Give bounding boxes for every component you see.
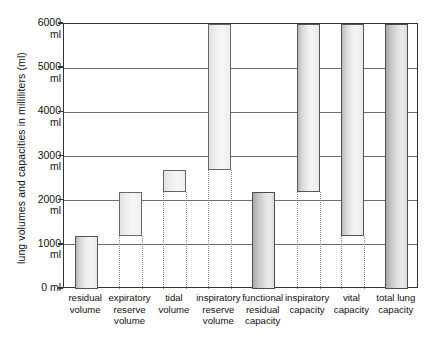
bar-tidal-volume [163, 170, 186, 192]
plot-area [63, 23, 418, 288]
x-label-line: reserve [107, 304, 151, 316]
x-label-line: reserve [196, 304, 240, 316]
lung-volumes-chart: lung volumes and capacities in millilite… [0, 0, 444, 339]
x-label-line: inspiratory [285, 292, 329, 304]
guide-inspiratory-capacity-right [320, 192, 322, 289]
y-tick-value: 0 [41, 281, 50, 293]
y-tick-unit: ml [17, 29, 61, 41]
y-tick-unit: ml [17, 205, 61, 217]
y-tick-label-1000: 1000ml [17, 238, 61, 261]
guide-inspiratory-reserve-volume-right [231, 170, 233, 289]
x-label-line: functional [241, 292, 285, 304]
gridline-5000 [64, 68, 417, 69]
gridline-4000 [64, 112, 417, 113]
y-tick-unit: ml [17, 117, 61, 129]
x-label-vital-capacity: vitalcapacity [329, 292, 373, 315]
x-label-functional-residual-capacity: functionalresidualcapacity [241, 292, 285, 327]
x-label-residual-volume: residualvolume [63, 292, 107, 315]
y-tick-value: 6000 [17, 17, 61, 29]
x-label-line: vital [329, 292, 373, 304]
y-tick-value: 5000 [17, 61, 61, 73]
x-label-line: volume [63, 304, 107, 316]
x-label-line: volume [196, 315, 240, 327]
guide-inspiratory-reserve-volume-left [208, 170, 210, 289]
guide-vital-capacity-left [341, 236, 343, 289]
x-label-line: total lung [374, 292, 418, 304]
guide-tidal-volume-right [186, 192, 188, 289]
bar-vital-capacity [341, 24, 364, 236]
x-label-line: residual [241, 304, 285, 316]
bar-functional-residual-capacity [252, 192, 275, 289]
x-label-total-lung-capacity: total lungcapacity [374, 292, 418, 315]
x-label-line: volume [107, 315, 151, 327]
x-label-line: capacity [241, 315, 285, 327]
x-label-line: volume [152, 304, 196, 316]
x-label-expiratory-reserve-volume: expiratoryreservevolume [107, 292, 151, 327]
guide-inspiratory-capacity-left [297, 192, 299, 289]
x-label-line: capacity [374, 304, 418, 316]
y-tick-label-3000: 3000ml [17, 150, 61, 173]
guide-vital-capacity-right [364, 236, 366, 289]
x-label-line: expiratory [107, 292, 151, 304]
x-label-inspiratory-capacity: inspiratorycapacity [285, 292, 329, 315]
gridline-2000 [64, 200, 417, 201]
y-tick-label-4000: 4000ml [17, 105, 61, 128]
y-tick-label-2000: 2000ml [17, 194, 61, 217]
x-label-line: residual [63, 292, 107, 304]
guide-tidal-volume-left [163, 192, 165, 289]
x-label-line: tidal [152, 292, 196, 304]
y-tick-label-5000: 5000ml [17, 61, 61, 84]
bar-inspiratory-capacity [297, 24, 320, 192]
gridline-3000 [64, 156, 417, 157]
bar-inspiratory-reserve-volume [208, 24, 231, 170]
bar-total-lung-capacity [385, 24, 408, 289]
bar-expiratory-reserve-volume [119, 192, 142, 236]
y-tick-unit: ml [17, 161, 61, 173]
bar-residual-volume [75, 236, 98, 289]
x-label-line: capacity [285, 304, 329, 316]
y-tick-label-0: 0 ml [17, 282, 61, 294]
y-tick-unit: ml [17, 73, 61, 85]
x-label-line: inspiratory [196, 292, 240, 304]
guide-expiratory-reserve-volume-right [142, 236, 144, 289]
x-label-tidal-volume: tidalvolume [152, 292, 196, 315]
x-label-line: capacity [329, 304, 373, 316]
y-tick-unit: ml [17, 249, 61, 261]
y-tick-label-6000: 6000ml [17, 17, 61, 40]
x-label-inspiratory-reserve-volume: inspiratoryreservevolume [196, 292, 240, 327]
guide-expiratory-reserve-volume-left [119, 236, 121, 289]
